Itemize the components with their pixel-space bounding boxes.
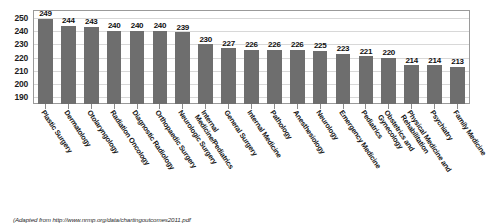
bar-slot: 220 bbox=[377, 11, 400, 104]
source-note: (Adapted from http://www.nrmp.org/data/c… bbox=[13, 216, 191, 223]
bar bbox=[244, 50, 259, 104]
bar bbox=[61, 26, 76, 104]
y-axis-tick-label: 240 bbox=[14, 26, 28, 36]
bar-slot: 221 bbox=[354, 11, 377, 104]
bar-slot: 214 bbox=[423, 11, 446, 104]
bar-value-label: 243 bbox=[85, 17, 97, 26]
bar-slot: 240 bbox=[126, 11, 149, 104]
bar-slot: 230 bbox=[194, 11, 217, 104]
y-axis-tick-label: 210 bbox=[14, 66, 28, 76]
bar bbox=[336, 54, 351, 104]
x-axis-category-label: Family Medicine bbox=[451, 109, 487, 157]
bar bbox=[198, 44, 213, 104]
bar-slot: 249 bbox=[34, 11, 57, 104]
bar-slot: 239 bbox=[171, 11, 194, 104]
bar-value-label: 220 bbox=[383, 48, 395, 57]
bar bbox=[221, 48, 236, 104]
bar-slot: 240 bbox=[148, 11, 171, 104]
bar bbox=[359, 56, 374, 104]
bar-value-label: 249 bbox=[39, 9, 51, 18]
bar bbox=[130, 31, 145, 104]
bar-slot: 227 bbox=[217, 11, 240, 104]
bar-value-label: 214 bbox=[405, 56, 417, 65]
bar-value-label: 226 bbox=[268, 40, 280, 49]
bar bbox=[107, 31, 122, 104]
y-axis-tick-label: 200 bbox=[14, 79, 28, 89]
bar-slot: 223 bbox=[332, 11, 355, 104]
bar-series: 2492442432402402402392302272262262262252… bbox=[34, 11, 469, 104]
bar-value-label: 214 bbox=[428, 56, 440, 65]
bar-value-label: 226 bbox=[245, 40, 257, 49]
bar bbox=[404, 65, 419, 104]
bar-slot: 214 bbox=[400, 11, 423, 104]
y-axis-tick-label: 250 bbox=[14, 13, 28, 23]
x-axis-labels: Plastic SurgeryDermatologyOtolaryngology… bbox=[34, 109, 469, 195]
bar bbox=[450, 67, 465, 104]
bar-value-label: 223 bbox=[337, 44, 349, 53]
y-axis: 190200210220230240250 bbox=[0, 10, 31, 104]
y-axis-tick-label: 230 bbox=[14, 39, 28, 49]
bar-value-label: 213 bbox=[451, 57, 463, 66]
bar-slot: 226 bbox=[286, 11, 309, 104]
bar-slot: 240 bbox=[103, 11, 126, 104]
y-axis-tick-label: 220 bbox=[14, 53, 28, 63]
bar bbox=[153, 31, 168, 104]
bar-slot: 225 bbox=[309, 11, 332, 104]
bar-value-label: 227 bbox=[222, 39, 234, 48]
bar-value-label: 225 bbox=[314, 41, 326, 50]
bar bbox=[313, 51, 328, 104]
y-axis-tick-label: 190 bbox=[14, 92, 28, 102]
bar bbox=[381, 58, 396, 105]
bar-value-label: 230 bbox=[199, 35, 211, 44]
bar bbox=[38, 19, 53, 104]
bar-slot: 226 bbox=[263, 11, 286, 104]
bar bbox=[175, 32, 190, 104]
bar bbox=[267, 50, 282, 104]
bar-slot: 226 bbox=[240, 11, 263, 104]
bar bbox=[290, 50, 305, 104]
bar bbox=[427, 65, 442, 104]
bar-value-label: 221 bbox=[360, 47, 372, 56]
bar-slot: 243 bbox=[80, 11, 103, 104]
bar-value-label: 240 bbox=[108, 21, 120, 30]
bar-chart-figure: 190200210220230240250 249244243240240240… bbox=[0, 0, 492, 223]
bar-value-label: 226 bbox=[291, 40, 303, 49]
bar-value-label: 244 bbox=[62, 16, 74, 25]
bar-value-label: 240 bbox=[154, 21, 166, 30]
bar bbox=[84, 27, 99, 104]
bar-slot: 213 bbox=[446, 11, 469, 104]
bar-slot: 244 bbox=[57, 11, 80, 104]
bar-value-label: 239 bbox=[177, 23, 189, 32]
bar-value-label: 240 bbox=[131, 21, 143, 30]
